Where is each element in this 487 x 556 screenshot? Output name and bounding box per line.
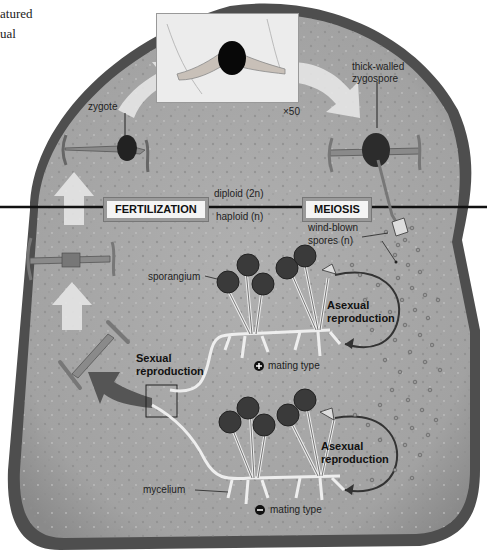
- minus-mating-type-label: mating type: [270, 504, 322, 516]
- spores-label-line-2: spores (n): [308, 235, 353, 247]
- zygospore-label-line-1: thick-walled: [352, 61, 404, 73]
- zygote-label: zygote: [88, 101, 117, 113]
- plus-mating-type-label: mating type: [268, 360, 320, 372]
- asexual-bottom-label-line-2: reproduction: [321, 453, 389, 466]
- haploid-label: haploid (n): [216, 211, 263, 223]
- asexual-top-label-line-1: Asexual: [327, 299, 369, 312]
- asexual-top-label-line-2: reproduction: [327, 312, 395, 325]
- sexual-label-line-2: reproduction: [136, 365, 204, 378]
- magnification-label: ×50: [283, 106, 300, 118]
- fertilization-label: FERTILIZATION: [104, 198, 208, 221]
- spores-label-line-1: wind-blown: [308, 222, 358, 234]
- diploid-label: diploid (2n): [214, 188, 263, 200]
- zygospore-micrograph: [156, 13, 299, 103]
- sexual-label-line-1: Sexual: [136, 352, 171, 365]
- sporangium-label: sporangium: [148, 271, 200, 283]
- mycelium-label: mycelium: [143, 484, 185, 496]
- zygospore-label-line-2: zygospore: [352, 73, 398, 85]
- meiosis-label: MEIOSIS: [303, 198, 371, 221]
- asexual-bottom-label-line-1: Asexual: [321, 440, 363, 453]
